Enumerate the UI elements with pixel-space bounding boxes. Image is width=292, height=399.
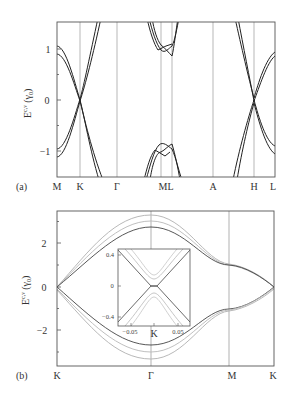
svg-text:Ec,v(γ0): Ec,v(γ0) <box>20 276 32 305</box>
panel-a-xtick-A: A <box>209 181 217 192</box>
panel-a-yticks <box>57 49 61 151</box>
panel-a-xtick-L: L <box>270 181 276 192</box>
inset-xtick-neg0.05: −0.05 <box>122 328 137 335</box>
panel-b-xtick-K2: K <box>269 370 277 381</box>
inset: 0.4 0 −0.4 −0.05 K 0.05 <box>102 249 190 339</box>
panel-a-xtick-ML: ML <box>159 181 174 192</box>
panel-b-yticks <box>57 222 61 353</box>
panel-a-ylabel: Ec,v(γ0) <box>22 89 34 118</box>
panel-a-xtick-Gamma: Γ <box>114 181 120 192</box>
panel-b-xtick-Gamma: Γ <box>148 370 154 381</box>
panel-a-ytick-1: 1 <box>46 44 51 55</box>
inset-ytick-neg0.4: −0.4 <box>102 313 115 320</box>
panel-b: 2 0 −2 Ec,v(γ0) (b) K Γ M K <box>16 211 277 382</box>
panel-a-ytick-0: 0 <box>45 95 50 106</box>
inset-ytick-0.4: 0.4 <box>106 251 115 258</box>
panel-a-bands <box>57 18 275 180</box>
panel-b-ytick-neg2: −2 <box>37 325 48 336</box>
panel-b-xtick-K1: K <box>53 370 61 381</box>
panel-a-ytick-neg1: −1 <box>40 146 51 157</box>
panel-b-ylabel: Ec,v(γ0) <box>20 276 32 305</box>
panel-a-xtick-H: H <box>250 181 257 192</box>
inset-ytick-0: 0 <box>110 282 113 289</box>
panel-b-ytick-2: 2 <box>42 238 47 249</box>
panel-a: 1 0 −1 Ec,v(γ0) (a) M K Γ ML A H L <box>16 18 276 193</box>
inset-xtick-0.05: 0.05 <box>172 328 183 335</box>
panel-a-label: (a) <box>16 181 27 193</box>
figure: 1 0 −1 Ec,v(γ0) (a) M K Γ ML A H L <box>0 0 292 399</box>
panel-b-ytick-0: 0 <box>42 282 47 293</box>
inset-xtick-K: K <box>150 328 158 339</box>
panel-a-frame <box>57 22 275 177</box>
panel-a-xtick-M: M <box>53 181 62 192</box>
panel-b-label: (b) <box>16 370 28 382</box>
panel-b-xtick-M: M <box>228 370 237 381</box>
svg-text:Ec,v(γ0): Ec,v(γ0) <box>22 89 34 118</box>
panel-a-xtick-K: K <box>76 181 84 192</box>
